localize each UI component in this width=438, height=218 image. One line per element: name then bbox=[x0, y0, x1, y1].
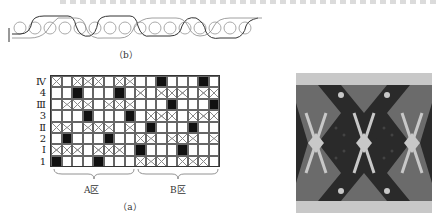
crossed-cell bbox=[188, 156, 199, 167]
empty-cell bbox=[135, 99, 146, 110]
row-label: Ⅳ bbox=[30, 76, 46, 87]
zone-label-a: A区 bbox=[84, 183, 100, 196]
crossed-cell bbox=[51, 144, 62, 155]
filled-cell bbox=[135, 144, 146, 155]
filled-cell bbox=[125, 110, 136, 121]
empty-cell bbox=[93, 133, 104, 144]
filled-cell bbox=[114, 87, 125, 98]
filled-cell bbox=[93, 156, 104, 167]
caption-a: （a） bbox=[110, 200, 150, 213]
empty-cell bbox=[114, 122, 125, 133]
empty-cell bbox=[72, 133, 83, 144]
row-label: 3 bbox=[30, 110, 46, 121]
empty-cell bbox=[177, 99, 188, 110]
crossed-cell bbox=[146, 133, 157, 144]
crossed-cell bbox=[62, 144, 73, 155]
filled-cell bbox=[156, 76, 167, 87]
empty-cell bbox=[156, 133, 167, 144]
empty-cell bbox=[83, 144, 94, 155]
empty-cell bbox=[125, 87, 136, 98]
crossed-cell bbox=[83, 122, 94, 133]
empty-cell bbox=[93, 110, 104, 121]
empty-cell bbox=[167, 122, 178, 133]
empty-cell bbox=[177, 110, 188, 121]
crossed-cell bbox=[51, 76, 62, 87]
empty-cell bbox=[177, 76, 188, 87]
caption-b: （b） bbox=[106, 48, 146, 61]
crossed-cell bbox=[104, 122, 115, 133]
crossed-cell bbox=[135, 133, 146, 144]
empty-cell bbox=[114, 156, 125, 167]
filled-cell bbox=[177, 144, 188, 155]
empty-cell bbox=[83, 87, 94, 98]
empty-cell bbox=[146, 144, 157, 155]
filled-cell bbox=[104, 133, 115, 144]
crossed-cell bbox=[83, 99, 94, 110]
crossed-cell bbox=[188, 133, 199, 144]
crossed-cell bbox=[167, 133, 178, 144]
empty-cell bbox=[83, 156, 94, 167]
empty-cell bbox=[156, 144, 167, 155]
row-label: Ⅲ bbox=[30, 99, 46, 110]
empty-cell bbox=[198, 122, 209, 133]
crossed-cell bbox=[188, 110, 199, 121]
crossed-cell bbox=[83, 76, 94, 87]
empty-cell bbox=[146, 76, 157, 87]
crossed-cell bbox=[125, 76, 136, 87]
crossed-cell bbox=[135, 87, 146, 98]
empty-cell bbox=[104, 156, 115, 167]
empty-cell bbox=[104, 110, 115, 121]
filled-cell bbox=[51, 156, 62, 167]
empty-cell bbox=[167, 144, 178, 155]
empty-cell bbox=[209, 122, 220, 133]
crossed-cell bbox=[177, 133, 188, 144]
crossed-cell bbox=[198, 87, 209, 98]
crossed-cell bbox=[72, 99, 83, 110]
empty-cell bbox=[51, 110, 62, 121]
crossed-cell bbox=[72, 76, 83, 87]
crossed-cell bbox=[198, 156, 209, 167]
filled-cell bbox=[62, 133, 73, 144]
crossed-cell bbox=[93, 122, 104, 133]
crossed-cell bbox=[209, 110, 220, 121]
crossed-cell bbox=[93, 144, 104, 155]
cropped-text-fragment bbox=[60, 0, 438, 4]
empty-cell bbox=[146, 87, 157, 98]
crossed-cell bbox=[114, 144, 125, 155]
empty-cell bbox=[72, 156, 83, 167]
row-label: Ⅰ bbox=[30, 144, 46, 155]
empty-cell bbox=[167, 156, 178, 167]
crossed-cell bbox=[156, 87, 167, 98]
empty-cell bbox=[198, 99, 209, 110]
empty-cell bbox=[188, 144, 199, 155]
crossed-cell bbox=[114, 76, 125, 87]
empty-cell bbox=[209, 76, 220, 87]
empty-cell bbox=[104, 87, 115, 98]
empty-cell bbox=[114, 133, 125, 144]
empty-cell bbox=[62, 76, 73, 87]
crossed-cell bbox=[209, 133, 220, 144]
row-label: 1 bbox=[30, 156, 46, 167]
empty-cell bbox=[51, 133, 62, 144]
row-label: Ⅱ bbox=[30, 122, 46, 133]
empty-cell bbox=[125, 144, 136, 155]
empty-cell bbox=[125, 133, 136, 144]
empty-cell bbox=[51, 99, 62, 110]
crossed-cell bbox=[167, 110, 178, 121]
empty-cell bbox=[198, 144, 209, 155]
crossed-cell bbox=[177, 87, 188, 98]
filled-cell bbox=[167, 99, 178, 110]
crossed-cell bbox=[135, 156, 146, 167]
crossed-cell bbox=[146, 110, 157, 121]
empty-cell bbox=[146, 99, 157, 110]
crossed-cell bbox=[146, 156, 157, 167]
empty-cell bbox=[188, 99, 199, 110]
crossed-cell bbox=[93, 76, 104, 87]
filled-cell bbox=[146, 122, 157, 133]
empty-cell bbox=[209, 156, 220, 167]
empty-cell bbox=[62, 87, 73, 98]
empty-cell bbox=[135, 110, 146, 121]
crossed-cell bbox=[62, 122, 73, 133]
crossed-cell bbox=[177, 156, 188, 167]
weave-cross-section-diagram bbox=[0, 12, 270, 46]
